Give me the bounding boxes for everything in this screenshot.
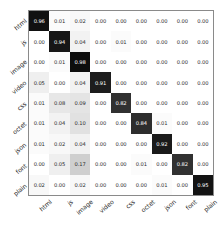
matrix-cell: 0.82	[111, 93, 131, 113]
y-axis-tick-labels: htmljsimagevideocssoctetjsonfontplain	[0, 10, 28, 196]
matrix-cell: 0.01	[49, 52, 69, 72]
matrix-cell: 0.00	[111, 113, 131, 133]
matrix-cell: 0.00	[172, 175, 192, 195]
matrix-cell: 0.00	[111, 175, 131, 195]
matrix-cell: 0.00	[193, 154, 213, 174]
x-axis-tick-label-plain: plain	[198, 198, 218, 217]
x-axis-tick-label-html: html	[33, 198, 53, 217]
matrix-cell: 0.00	[29, 154, 49, 174]
matrix-cell: 0.01	[29, 113, 49, 133]
matrix-cell: 0.01	[152, 113, 172, 133]
matrix-cell: 0.00	[131, 72, 151, 92]
matrix-cell: 0.00	[90, 31, 110, 51]
matrix-cell: 0.00	[131, 93, 151, 113]
matrix-cell: 0.91	[90, 72, 110, 92]
matrix-cell: 0.94	[49, 31, 69, 51]
x-axis-tick-label-font: font	[177, 198, 197, 217]
matrix-cell: 0.00	[193, 72, 213, 92]
matrix-cell: 0.00	[131, 11, 151, 31]
matrix-cell: 0.02	[29, 175, 49, 195]
matrix-cell: 0.00	[90, 11, 110, 31]
matrix-cell: 0.00	[172, 11, 192, 31]
matrix-cell: 0.17	[70, 154, 90, 174]
matrix-cell: 0.00	[172, 93, 192, 113]
matrix-cell: 0.00	[152, 11, 172, 31]
matrix-cell: 0.05	[29, 72, 49, 92]
matrix-cell: 0.00	[29, 31, 49, 51]
matrix-cell: 0.95	[193, 175, 213, 195]
matrix-cell: 0.10	[70, 113, 90, 133]
matrix-cell: 0.02	[70, 175, 90, 195]
matrix-cell: 0.00	[111, 154, 131, 174]
matrix-cell: 0.09	[70, 93, 90, 113]
matrix-cell: 0.04	[49, 113, 69, 133]
confusion-matrix-figure: htmljsimagevideocssoctetjsonfontplain 0.…	[0, 0, 221, 227]
matrix-cell: 0.00	[193, 11, 213, 31]
matrix-cell: 0.01	[152, 175, 172, 195]
matrix-cell: 0.00	[90, 52, 110, 72]
matrix-cell: 0.00	[172, 134, 192, 154]
matrix-cell: 0.00	[172, 52, 192, 72]
matrix-cell: 0.00	[90, 154, 110, 174]
matrix-cell: 0.00	[49, 72, 69, 92]
matrix-cell: 0.00	[193, 52, 213, 72]
confusion-matrix-grid: 0.960.010.020.000.000.000.000.000.000.00…	[28, 10, 214, 196]
matrix-cell: 0.00	[172, 113, 192, 133]
matrix-cell: 0.98	[70, 52, 90, 72]
matrix-cell: 0.00	[111, 134, 131, 154]
matrix-cell: 0.92	[152, 134, 172, 154]
matrix-cell: 0.00	[193, 134, 213, 154]
matrix-cell: 0.00	[131, 31, 151, 51]
matrix-cell: 0.00	[111, 72, 131, 92]
matrix-cell: 0.05	[49, 154, 69, 174]
matrix-cell: 0.00	[29, 52, 49, 72]
matrix-cell: 0.00	[193, 31, 213, 51]
matrix-cell: 0.00	[90, 134, 110, 154]
matrix-cell: 0.00	[111, 52, 131, 72]
matrix-cell: 0.00	[172, 72, 192, 92]
matrix-cell: 0.00	[152, 72, 172, 92]
x-axis-tick-label-image: image	[74, 198, 94, 217]
matrix-cell: 0.08	[49, 93, 69, 113]
matrix-cell: 0.02	[70, 11, 90, 31]
matrix-cell: 0.00	[131, 175, 151, 195]
x-axis-tick-label-json: json	[157, 198, 177, 217]
matrix-cell: 0.00	[131, 134, 151, 154]
matrix-cell: 0.00	[193, 113, 213, 133]
matrix-cell: 0.00	[172, 31, 192, 51]
matrix-cell: 0.00	[90, 113, 110, 133]
x-axis-tick-labels: htmljsimagevideocssoctetjsonfontplain	[28, 196, 214, 227]
matrix-cell: 0.96	[29, 11, 49, 31]
matrix-cell: 0.00	[90, 175, 110, 195]
matrix-cell: 0.04	[70, 31, 90, 51]
matrix-cell: 0.01	[29, 134, 49, 154]
x-axis-tick-label-video: video	[95, 198, 115, 217]
matrix-cell: 0.00	[193, 93, 213, 113]
x-axis-tick-label-octet: octet	[136, 198, 156, 217]
matrix-cell: 0.01	[49, 11, 69, 31]
matrix-cell: 0.84	[131, 113, 151, 133]
matrix-cell: 0.04	[70, 72, 90, 92]
matrix-cell: 0.00	[131, 52, 151, 72]
matrix-cell: 0.00	[152, 93, 172, 113]
matrix-cell: 0.01	[29, 93, 49, 113]
matrix-cell: 0.04	[70, 134, 90, 154]
matrix-cell: 0.00	[49, 175, 69, 195]
matrix-cell: 0.01	[111, 31, 131, 51]
x-axis-tick-label-js: js	[53, 198, 73, 217]
matrix-cell: 0.00	[152, 154, 172, 174]
matrix-cell: 0.00	[152, 31, 172, 51]
matrix-cell: 0.00	[90, 93, 110, 113]
matrix-cell: 0.00	[152, 52, 172, 72]
x-axis-tick-label-css: css	[115, 198, 135, 217]
matrix-cell: 0.01	[131, 154, 151, 174]
matrix-cell: 0.02	[49, 134, 69, 154]
matrix-cell: 0.82	[172, 154, 192, 174]
matrix-cell: 0.00	[111, 11, 131, 31]
